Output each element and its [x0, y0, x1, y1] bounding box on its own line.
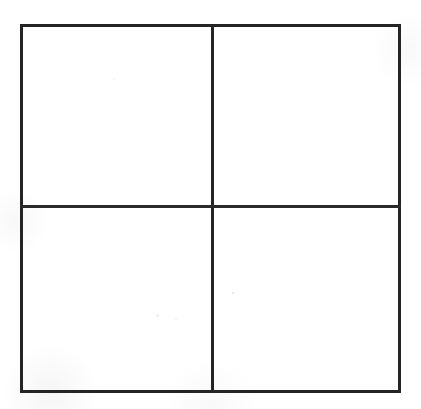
grid-cell-bottom-right[interactable]	[214, 208, 398, 390]
grid-cell-bottom-left[interactable]	[23, 208, 211, 390]
grid-cell-top-right[interactable]	[214, 27, 398, 205]
diagram-canvas	[0, 0, 421, 409]
grid-frame	[20, 24, 401, 393]
grid-cell-top-left[interactable]	[23, 27, 211, 205]
frame-right-border	[398, 24, 401, 393]
